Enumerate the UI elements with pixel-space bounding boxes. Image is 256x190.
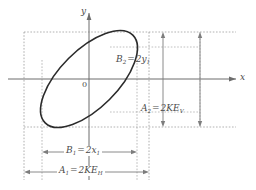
b1-value: 2x — [86, 145, 97, 155]
origin-label: 0 — [82, 81, 87, 89]
polarization-ellipse-figure: y x 0 B2B2=2y1 A2A2=2KEV B1B1=2x1 A1A1=2… — [0, 0, 256, 190]
b1-arrowhead-left — [42, 150, 48, 154]
b2-symbol-subscript: 2 — [123, 59, 127, 65]
a1-arrowhead-right — [143, 170, 149, 174]
b2-arrowhead-bottom — [161, 121, 165, 127]
figure-canvas — [0, 0, 256, 190]
a2-annotation: A2A2=2KEV — [141, 104, 184, 114]
y-axis-label: y — [81, 7, 86, 16]
a2-arrowhead-top — [198, 32, 202, 38]
b1-equals: = — [77, 145, 85, 155]
x-axis-arrowhead — [229, 77, 236, 82]
x-axis-label: x — [240, 73, 245, 82]
a1-arrowhead-left — [24, 170, 30, 174]
a2-value: 2KE — [161, 103, 180, 113]
a1-equals: = — [70, 165, 78, 175]
a2-arrowhead-bottom — [198, 121, 202, 127]
b2-value: 2y — [136, 54, 147, 64]
b1-value-subscript: 1 — [97, 150, 101, 156]
b2-equals: = — [127, 54, 135, 64]
a1-value: 2KE — [79, 165, 98, 175]
b1-symbol: B — [66, 145, 73, 155]
b2-arrowhead-top — [161, 32, 165, 38]
b1-annotation: B1B1=2x1 — [64, 146, 102, 156]
y-axis-arrowhead — [87, 13, 92, 20]
a1-symbol-subscript: 1 — [66, 170, 70, 176]
a1-annotation: A1A1=2KEH — [57, 166, 105, 176]
b2-annotation: B2B2=2y1 — [116, 55, 150, 65]
a2-equals: = — [152, 103, 160, 113]
a2-value-subscript: V — [180, 108, 184, 114]
a1-value-subscript: H — [98, 170, 103, 176]
b1-arrowhead-right — [131, 150, 137, 154]
b2-symbol: B — [116, 54, 123, 64]
a2-symbol-subscript: 2 — [148, 108, 152, 114]
b2-value-subscript: 1 — [147, 59, 151, 65]
b1-symbol-subscript: 1 — [73, 150, 77, 156]
